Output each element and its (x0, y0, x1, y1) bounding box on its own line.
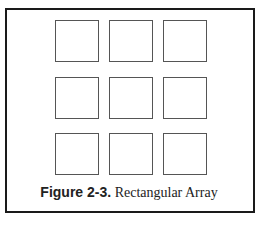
array-cell-r1-c3 (163, 20, 207, 62)
figure-title: Rectangular Array (111, 185, 218, 200)
array-cell-r3-c3 (163, 133, 207, 175)
array-cell-r3-c1 (55, 133, 99, 175)
array-cell-r2-c3 (163, 77, 207, 119)
figure-caption: Figure 2-3. Rectangular Array (0, 184, 258, 201)
array-cell-r3-c2 (109, 133, 153, 175)
array-cell-r2-c2 (109, 77, 153, 119)
array-cell-r1-c1 (55, 20, 99, 62)
array-cell-r1-c2 (109, 20, 153, 62)
figure-label: Figure 2-3. (40, 184, 111, 200)
array-cell-r2-c1 (55, 77, 99, 119)
